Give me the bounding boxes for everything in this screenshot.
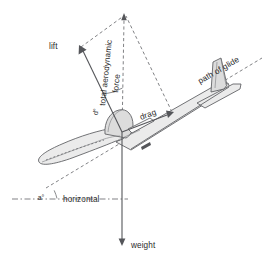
cockpit-canopy [105, 110, 133, 138]
lift-to-resultant-dashed [81, 15, 125, 47]
lift-label: lift [49, 42, 58, 51]
alpha-angle-arc [54, 190, 57, 198]
weight-label: weight [130, 241, 156, 250]
force-label: force [111, 73, 122, 93]
alpha-angle-label: a° [38, 194, 45, 201]
lift-vector-arrowhead [79, 45, 87, 54]
weight-vector-arrowhead [119, 239, 126, 247]
delta-angle-label: d° [92, 108, 100, 116]
fuselage-boom [116, 83, 230, 150]
glider-force-diagram: lift total aerodynamic force drag path o… [0, 0, 268, 266]
horizontal-label: horizontal [63, 195, 100, 204]
total-aerodynamic-label: total aerodynamic [98, 39, 114, 106]
diagram-canvas: lift total aerodynamic force drag path o… [0, 0, 268, 266]
drag-to-resultant-dashed [126, 16, 172, 112]
